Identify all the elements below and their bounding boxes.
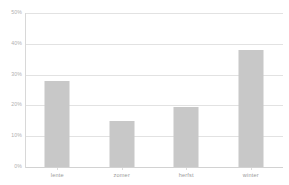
y-tick-label-30: 30% [11,72,22,77]
y-tick-label-50: 50% [11,10,22,15]
y-tick-label-0: 0% [14,164,22,169]
x-axis-labels: lente zomer herfst winter [25,168,283,185]
bar-slot-zomer [90,13,155,167]
bars-layer [25,13,283,167]
bar-chart: 50% 40% 30% 20% 10% 0% lente zomer herfs… [0,0,289,185]
x-label-lente: lente [51,173,64,179]
bar-slot-herfst [154,13,219,167]
y-axis-ticks: 50% 40% 30% 20% 10% 0% [0,13,22,167]
x-tick-winter [251,168,252,170]
bar-zomer[interactable] [109,121,134,167]
bar-slot-lente [25,13,90,167]
x-label-winter: winter [243,173,259,179]
bar-lente[interactable] [45,81,70,167]
x-tick-zomer [122,168,123,170]
bar-herfst[interactable] [174,107,199,167]
x-tick-lente [57,168,58,170]
x-label-zomer: zomer [114,173,130,179]
x-label-herfst: herfst [179,173,194,179]
y-tick-label-10: 10% [11,134,22,139]
bar-winter[interactable] [238,50,263,167]
y-tick-label-20: 20% [11,103,22,108]
bar-slot-winter [219,13,284,167]
y-tick-label-40: 40% [11,41,22,46]
x-tick-herfst [186,168,187,170]
